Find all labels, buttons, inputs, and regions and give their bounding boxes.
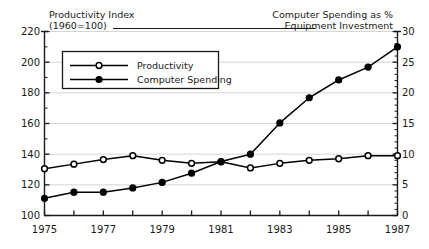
right-tick-label: 5 — [402, 179, 408, 190]
left-tick-label: 140 — [21, 149, 40, 160]
data-point-marker — [100, 189, 106, 195]
legend-sample-marker — [96, 77, 102, 83]
data-point-marker — [365, 64, 371, 70]
data-point-marker — [42, 195, 48, 201]
data-point-marker — [306, 157, 312, 163]
data-point-marker — [336, 156, 342, 162]
x-tick-label: 1987 — [385, 224, 410, 235]
data-point-marker — [71, 161, 77, 167]
right-axis-title: Computer Spending as % Equipment Investm… — [272, 9, 393, 31]
right-tick-label: 25 — [402, 57, 415, 68]
legend-item-label: Computer Spending — [137, 74, 232, 85]
left-axis-title-line1: Productivity Index — [49, 9, 135, 20]
data-point-marker — [189, 170, 195, 176]
left-tick-label: 120 — [21, 179, 40, 190]
data-point-marker — [277, 160, 283, 166]
right-tick-label: 10 — [402, 149, 415, 160]
x-tick-label: 1983 — [267, 224, 292, 235]
data-point-marker — [395, 44, 401, 50]
x-tick-label: 1981 — [208, 224, 233, 235]
data-point-marker — [71, 189, 77, 195]
data-point-marker — [189, 160, 195, 166]
right-tick-label: 30 — [402, 26, 415, 37]
data-point-marker — [306, 95, 312, 101]
chart-background — [0, 0, 429, 249]
left-tick-label: 220 — [21, 26, 40, 37]
data-point-marker — [277, 120, 283, 126]
data-point-marker — [159, 157, 165, 163]
left-tick-label: 200 — [21, 57, 40, 68]
data-point-marker — [42, 166, 48, 172]
data-point-marker — [395, 153, 401, 159]
right-axis-title-line2: Equipment Investment — [285, 20, 394, 31]
chart-container: 100120140160180200220 051015202530 19751… — [0, 0, 429, 249]
data-point-marker — [130, 185, 136, 191]
data-point-marker — [159, 179, 165, 185]
x-tick-label: 1979 — [149, 224, 174, 235]
dual-axis-line-chart: 100120140160180200220 051015202530 19751… — [0, 0, 429, 249]
left-tick-label: 100 — [21, 210, 40, 221]
x-tick-label: 1975 — [32, 224, 57, 235]
data-point-marker — [100, 157, 106, 163]
chart-legend: ProductivityComputer Spending — [63, 52, 232, 89]
data-point-marker — [130, 153, 136, 159]
legend-sample-marker — [96, 63, 102, 69]
left-axis-title-line2: (1960=100) — [49, 20, 107, 31]
data-point-marker — [247, 151, 253, 157]
left-tick-label: 160 — [21, 118, 40, 129]
data-point-marker — [336, 77, 342, 83]
right-axis-title-line1: Computer Spending as % — [272, 9, 393, 20]
right-tick-label: 15 — [402, 118, 415, 129]
left-tick-label: 180 — [21, 87, 40, 98]
data-point-marker — [365, 153, 371, 159]
data-point-marker — [248, 165, 254, 171]
data-point-marker — [218, 159, 224, 165]
right-tick-label: 20 — [402, 87, 415, 98]
right-tick-label: 0 — [402, 210, 408, 221]
x-tick-label: 1977 — [91, 224, 116, 235]
legend-item-label: Productivity — [137, 60, 194, 71]
x-tick-label: 1985 — [326, 224, 351, 235]
